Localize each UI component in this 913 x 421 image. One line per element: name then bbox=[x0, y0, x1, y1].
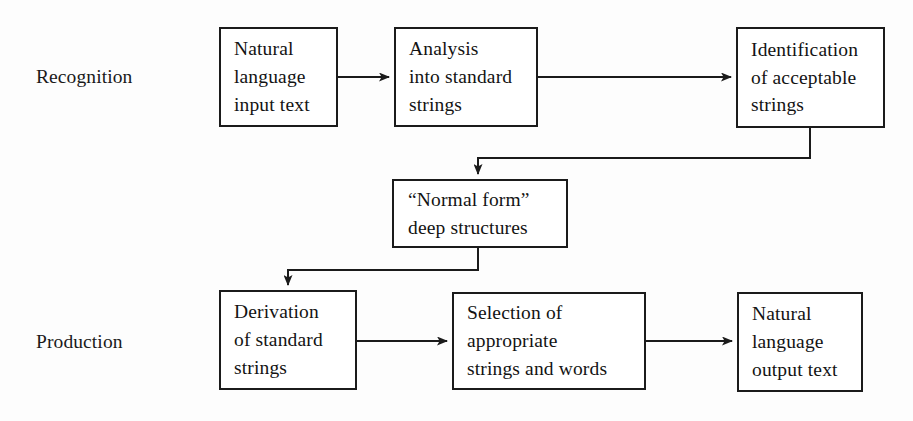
node-label: Selection of appropriate strings and wor… bbox=[454, 299, 615, 382]
edge-identification-to-normal bbox=[478, 128, 810, 174]
node-natural-language-input[interactable]: Natural language input text bbox=[219, 27, 338, 127]
node-label: Derivation of standard strings bbox=[221, 298, 331, 381]
node-label: “Normal form” deep structures bbox=[394, 186, 538, 241]
node-analysis-standard[interactable]: Analysis into standard strings bbox=[394, 27, 538, 127]
node-selection-appropriate[interactable]: Selection of appropriate strings and wor… bbox=[452, 292, 646, 390]
node-label: Natural language output text bbox=[739, 300, 846, 383]
node-label: Natural language input text bbox=[221, 35, 318, 118]
edge-normal-to-derivation bbox=[288, 248, 478, 285]
node-natural-language-output[interactable]: Natural language output text bbox=[737, 292, 863, 392]
stage-label-production: Production bbox=[36, 331, 123, 352]
node-derivation-standard[interactable]: Derivation of standard strings bbox=[219, 290, 357, 390]
node-label: Identification of acceptable strings bbox=[738, 36, 866, 119]
node-label: Analysis into standard strings bbox=[396, 35, 520, 118]
stage-label-recognition: Recognition bbox=[36, 66, 132, 87]
flowchart-diagram: Recognition Production Natural language … bbox=[0, 0, 913, 421]
node-identification-strings[interactable]: Identification of acceptable strings bbox=[736, 27, 885, 128]
node-normal-form-deep[interactable]: “Normal form” deep structures bbox=[392, 179, 568, 248]
